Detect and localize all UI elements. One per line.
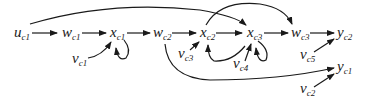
node-v_c1: vc1 (72, 50, 87, 68)
self-loop-x_c3 (256, 41, 267, 61)
node-w_c3: wc3 (291, 24, 310, 42)
node-x_c2: xc2 (199, 24, 216, 42)
node-y_c2: yc2 (335, 24, 353, 42)
self-loop-x_c1 (116, 40, 129, 59)
node-v_c2: vc2 (300, 80, 316, 98)
nodes: uc1wc1xc1vc1wc2xc2vc3xc3vc4wc3yc2vc5yc1v… (14, 24, 353, 98)
node-w_c1: wc1 (62, 24, 81, 42)
node-u_c1: uc1 (14, 24, 30, 42)
node-y_c1: yc1 (335, 58, 352, 76)
node-x_c3: xc3 (246, 24, 263, 42)
edge-v_c1-x_c1 (88, 42, 111, 58)
node-v_c5: vc5 (300, 46, 316, 64)
node-v_c3: vc3 (178, 45, 194, 63)
edge-v_c4-x_c3 (245, 44, 251, 61)
edge-v_c3-x_c2 (190, 42, 199, 50)
node-x_c1: xc1 (109, 24, 125, 42)
signal-flow-diagram: uc1wc1xc1vc1wc2xc2vc3xc3vc4wc3yc2vc5yc1v… (0, 0, 367, 101)
edge-v_c5-y_c2 (314, 39, 334, 52)
node-w_c2: wc2 (153, 24, 172, 42)
edge-v_c2-y_c1 (314, 74, 334, 87)
